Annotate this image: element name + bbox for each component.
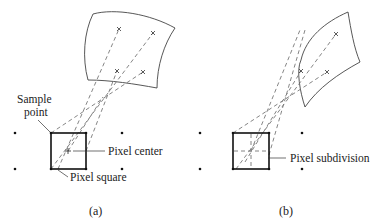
sample-x-marks	[299, 32, 338, 74]
label-sample-point-line2: point	[24, 106, 48, 119]
pixel-center-marker	[65, 148, 71, 154]
caption-a: (a)	[89, 204, 102, 218]
figure-canvas: Sample point Pixel center Pixel square (…	[0, 0, 379, 223]
leader-sample-point	[38, 120, 50, 132]
label-pixel-subdivision: Pixel subdivision	[290, 152, 370, 164]
pixel-subdivision-lines	[234, 134, 268, 168]
leader-pixel-square	[58, 170, 68, 177]
caption-b: (b)	[279, 204, 293, 218]
surface-patch	[299, 12, 360, 107]
panel-b: Pixel subdivision (b)	[199, 12, 370, 218]
label-pixel-square: Pixel square	[70, 171, 127, 184]
label-pixel-center: Pixel center	[108, 145, 163, 157]
panel-a: Sample point Pixel center Pixel square (…	[14, 12, 175, 218]
projection-rays	[233, 30, 336, 169]
label-sample-point-line1: Sample	[17, 93, 52, 106]
sample-x-marks	[115, 27, 155, 74]
